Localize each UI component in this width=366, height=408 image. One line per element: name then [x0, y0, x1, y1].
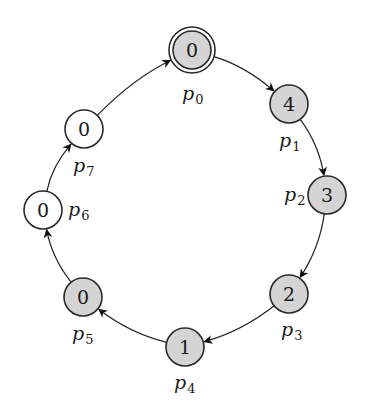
- node-value: 1: [179, 336, 191, 358]
- edge-p5-to-p6: [47, 230, 72, 283]
- node-value: 4: [283, 93, 295, 115]
- node-p6: 0p6: [24, 191, 89, 229]
- node-p2: 3p2: [284, 176, 346, 214]
- ring-diagram: 0p04p13p22p31p40p50p60p7: [0, 0, 366, 408]
- node-label: p2: [284, 183, 305, 208]
- node-value: 0: [77, 286, 89, 308]
- node-value: 0: [186, 39, 198, 61]
- node-label: p4: [174, 371, 195, 396]
- node-label: p6: [68, 198, 89, 223]
- node-value: 0: [37, 199, 49, 221]
- edge-p7-to-p0: [97, 61, 170, 116]
- node-label: p3: [281, 318, 302, 343]
- edge-p0-to-p1: [214, 57, 274, 91]
- edge-p2-to-p3: [300, 214, 324, 277]
- node-label: p0: [182, 82, 203, 107]
- node-label: p7: [73, 154, 94, 179]
- edge-p3-to-p4: [204, 306, 274, 342]
- node-p4: 1p4: [166, 328, 204, 396]
- node-p0: 0p0: [169, 27, 215, 107]
- node-p1: 4p1: [270, 85, 308, 154]
- node-value: 0: [78, 118, 90, 140]
- node-p5: 0p5: [64, 278, 102, 347]
- edge-p4-to-p5: [99, 309, 167, 342]
- edge-p6-to-p7: [47, 144, 71, 191]
- node-value: 2: [283, 283, 295, 305]
- node-label: p5: [72, 322, 93, 347]
- node-p3: 2p3: [270, 275, 308, 343]
- node-label: p1: [279, 129, 300, 154]
- node-value: 3: [321, 184, 333, 206]
- edge-p1-to-p2: [300, 119, 324, 175]
- nodes-layer: 0p04p13p22p31p40p50p60p7: [24, 27, 346, 396]
- ring-diagram-canvas: 0p04p13p22p31p40p50p60p7: [0, 0, 366, 408]
